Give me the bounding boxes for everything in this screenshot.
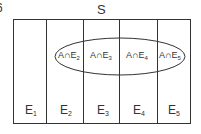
partition-name: E: [60, 103, 68, 117]
partition-subscript: 5: [176, 110, 180, 117]
intersection-prefix: A∩E: [58, 50, 76, 60]
partition-label-e3: E3: [97, 103, 109, 117]
partition-label-e1: E1: [25, 103, 37, 117]
intersection-prefix: A∩E: [90, 50, 108, 60]
partition-subscript: 2: [68, 110, 72, 117]
partition-label-e5: E5: [168, 103, 180, 117]
partition-name: E: [25, 103, 33, 117]
intersection-label-e4: A∩E4: [126, 50, 148, 61]
partition-name: E: [97, 103, 105, 117]
intersection-prefix: A∩E: [126, 50, 144, 60]
partition-subscript: 1: [33, 110, 37, 117]
partition-name: E: [133, 103, 141, 117]
intersection-subscript: 2: [77, 55, 80, 61]
intersection-subscript: 5: [178, 55, 181, 61]
partition-subscript: 3: [105, 110, 109, 117]
partition-label-e4: E4: [133, 103, 145, 117]
partition-subscript: 4: [141, 110, 145, 117]
intersection-prefix: A∩E: [159, 50, 177, 60]
partition-label-e2: E2: [60, 103, 72, 117]
intersection-subscript: 3: [109, 55, 112, 61]
intersection-subscript: 4: [145, 55, 148, 61]
intersection-label-e5: A∩E5: [159, 50, 181, 61]
intersection-label-e3: A∩E3: [90, 50, 112, 61]
partition-name: E: [168, 103, 176, 117]
intersection-label-e2: A∩E2: [58, 50, 80, 61]
